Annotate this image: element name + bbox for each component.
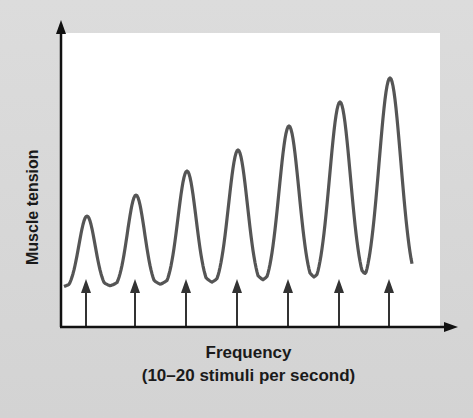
x-axis-arrow-icon xyxy=(444,322,458,332)
x-axis-sublabel: (10–20 stimuli per second) xyxy=(12,366,473,386)
y-axis-arrow-icon xyxy=(56,20,66,34)
x-axis-label: Frequency xyxy=(12,343,473,363)
stimulus-arrows xyxy=(81,279,394,327)
tension-curve xyxy=(64,78,412,287)
y-axis-label: Muscle tension xyxy=(24,149,42,265)
